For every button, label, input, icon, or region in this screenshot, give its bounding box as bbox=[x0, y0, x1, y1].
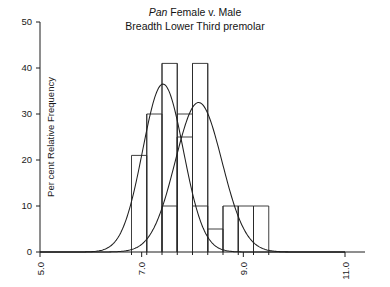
x-tick-label-11.0: 11.0 bbox=[340, 262, 351, 280]
x-tick-label-5.0: 5.0 bbox=[35, 262, 46, 275]
y-tick-label-30: 30 bbox=[21, 108, 32, 119]
chart-title-genus: Pan bbox=[149, 6, 168, 18]
x-tick-label-9.0: 9.0 bbox=[238, 262, 249, 275]
y-tick-label-10: 10 bbox=[21, 200, 32, 211]
y-tick-label-0: 0 bbox=[27, 246, 32, 257]
histogram-male bbox=[162, 63, 269, 252]
chart-title-rest: Female v. Male bbox=[167, 6, 241, 18]
y-tick-label-50: 50 bbox=[21, 16, 32, 27]
chart-title-line1: Pan Female v. Male bbox=[149, 6, 242, 18]
y-tick-label-40: 40 bbox=[21, 62, 32, 73]
pan-female-male-histogram-chart: 01020304050Per cent Relative Frequency5.… bbox=[0, 0, 390, 287]
y-axis-label: Per cent Relative Frequency bbox=[45, 77, 56, 197]
chart-title-line2: Breadth Lower Third premolar bbox=[125, 20, 265, 32]
y-tick-label-20: 20 bbox=[21, 154, 32, 165]
x-tick-label-7.0: 7.0 bbox=[136, 262, 147, 275]
chart-container: 01020304050Per cent Relative Frequency5.… bbox=[0, 0, 390, 287]
